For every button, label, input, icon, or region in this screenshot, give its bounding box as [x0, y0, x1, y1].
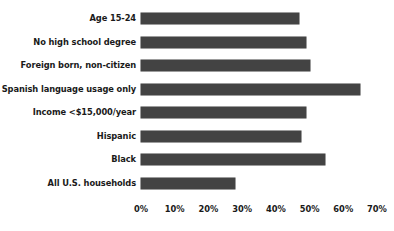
x-axis: 0% 10% 20% 30% 40% 50% 60% 70%	[141, 204, 377, 218]
bar	[141, 13, 299, 24]
table-row: Age 15-24	[0, 13, 394, 37]
bar-track	[141, 60, 377, 71]
bar	[141, 154, 325, 165]
bar-track	[141, 131, 377, 142]
category-label: Hispanic	[97, 131, 136, 142]
bar	[141, 107, 306, 118]
x-axis-tick: 40%	[266, 204, 286, 215]
x-axis-tick: 20%	[198, 204, 218, 215]
bar-track	[141, 107, 377, 118]
bar-track	[141, 13, 377, 24]
bar-track	[141, 154, 377, 165]
table-row: Income <$15,000/year	[0, 107, 394, 131]
x-axis-tick: 10%	[165, 204, 185, 215]
category-label: Income <$15,000/year	[33, 107, 136, 118]
table-row: Spanish language usage only	[0, 84, 394, 108]
bar-track	[141, 84, 377, 95]
category-label: All U.S. households	[48, 178, 136, 189]
bar	[141, 84, 360, 95]
table-row: Black	[0, 154, 394, 178]
x-axis-tick: 50%	[300, 204, 320, 215]
bar-track	[141, 37, 377, 48]
bar	[141, 37, 306, 48]
category-label: No high school degree	[33, 37, 136, 48]
x-axis-tick: 0%	[134, 204, 148, 215]
bar	[141, 178, 235, 189]
category-label: Black	[111, 154, 136, 165]
bar-chart: Age 15-24 No high school degree Foreign …	[0, 0, 394, 231]
bar-track	[141, 178, 377, 189]
bar	[141, 131, 301, 142]
category-label: Foreign born, non-citizen	[21, 60, 136, 71]
category-label: Age 15-24	[89, 13, 136, 24]
table-row: Foreign born, non-citizen	[0, 60, 394, 84]
x-axis-tick: 60%	[333, 204, 353, 215]
bar-rows: Age 15-24 No high school degree Foreign …	[0, 13, 394, 201]
x-axis-tick: 70%	[367, 204, 387, 215]
category-label: Spanish language usage only	[2, 84, 136, 95]
bar	[141, 60, 310, 71]
table-row: No high school degree	[0, 37, 394, 61]
x-axis-tick: 30%	[232, 204, 252, 215]
table-row: Hispanic	[0, 131, 394, 155]
table-row: All U.S. households	[0, 178, 394, 202]
